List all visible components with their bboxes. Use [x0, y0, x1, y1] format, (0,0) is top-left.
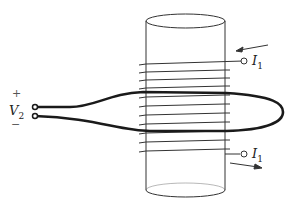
diagram-canvas: + V2 − I1 I1	[0, 0, 293, 210]
v2-terminal-plus	[33, 105, 38, 110]
arrow-bottom-icon	[230, 163, 262, 169]
current-subscript-top: 1	[257, 61, 263, 71]
diagram-svg	[0, 0, 293, 210]
coil-windings	[139, 61, 243, 154]
sense-loop	[35, 92, 283, 131]
current-label-top: I1	[252, 54, 263, 71]
arrow-top-icon	[236, 45, 268, 52]
plus-sign: +	[12, 88, 21, 99]
terminal-top	[241, 58, 247, 64]
v2-terminal-minus	[33, 114, 38, 119]
terminal-bottom	[241, 151, 247, 157]
current-subscript-bottom: 1	[257, 154, 263, 164]
minus-sign: −	[11, 119, 20, 130]
current-label-bottom: I1	[252, 147, 263, 164]
voltage-symbol: V	[9, 103, 18, 118]
